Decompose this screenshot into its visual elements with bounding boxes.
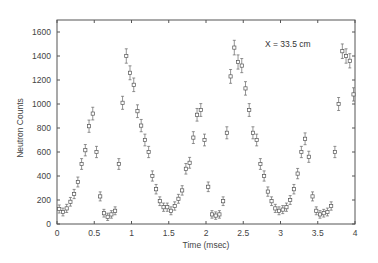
x-tick-label: 1.5 xyxy=(163,228,175,238)
data-point xyxy=(61,208,64,216)
data-point xyxy=(99,192,102,201)
data-point xyxy=(140,119,143,131)
data-point xyxy=(181,186,184,195)
data-point xyxy=(203,134,206,146)
x-tick-label: 4 xyxy=(353,228,358,238)
data-point xyxy=(330,202,333,210)
data-point xyxy=(292,184,295,193)
data-point xyxy=(210,211,213,219)
data-points xyxy=(58,40,355,220)
x-axis-label: Time (msec) xyxy=(183,240,230,250)
data-point xyxy=(263,171,266,181)
data-point xyxy=(315,207,318,215)
data-point xyxy=(162,203,165,211)
x-axis: 00.511.522.533.54 xyxy=(55,20,358,238)
data-point xyxy=(73,189,76,198)
data-point xyxy=(117,159,120,170)
data-point xyxy=(251,127,254,139)
data-point xyxy=(154,184,157,193)
data-point xyxy=(169,207,172,215)
data-point xyxy=(229,69,232,83)
y-tick-label: 1400 xyxy=(32,51,51,61)
data-point xyxy=(184,164,187,175)
data-point xyxy=(195,108,198,121)
data-point xyxy=(337,98,340,111)
x-tick-label: 3.5 xyxy=(312,228,324,238)
data-point xyxy=(136,105,139,118)
data-point xyxy=(274,204,277,212)
data-point xyxy=(80,159,83,170)
data-point xyxy=(95,146,98,157)
data-point xyxy=(307,151,310,162)
data-point xyxy=(277,207,280,215)
data-point xyxy=(255,134,258,146)
data-point xyxy=(270,197,273,206)
y-tick-label: 1000 xyxy=(32,99,51,109)
x-tick-label: 3 xyxy=(278,228,283,238)
x-tick-label: 0 xyxy=(55,228,60,238)
data-point xyxy=(322,209,325,217)
data-point xyxy=(218,211,221,219)
y-tick-label: 800 xyxy=(37,123,51,133)
data-point xyxy=(125,49,128,63)
y-tick-label: 1600 xyxy=(32,27,51,37)
data-point xyxy=(188,157,191,168)
data-point xyxy=(147,146,150,157)
data-point xyxy=(285,203,288,211)
data-point xyxy=(84,145,87,156)
data-point xyxy=(110,211,113,219)
data-point xyxy=(69,197,72,206)
data-point xyxy=(91,107,94,120)
data-point xyxy=(121,96,124,109)
data-point xyxy=(296,168,299,178)
data-point xyxy=(65,204,68,212)
data-point xyxy=(166,203,169,211)
data-point xyxy=(333,146,336,157)
data-point xyxy=(318,211,321,219)
position-annotation: X = 33.5 cm xyxy=(265,39,311,49)
y-tick-label: 600 xyxy=(37,147,51,157)
neutron-counts-chart: 00.511.522.533.54 0200400600800100012001… xyxy=(0,0,378,263)
data-point xyxy=(326,208,329,216)
data-point xyxy=(114,207,117,215)
data-point xyxy=(87,120,90,132)
data-point xyxy=(300,146,303,157)
data-point xyxy=(76,177,79,187)
data-point xyxy=(341,44,344,59)
data-point xyxy=(266,187,269,196)
data-point xyxy=(236,55,239,69)
data-point xyxy=(233,40,236,55)
x-tick-label: 2 xyxy=(204,228,209,238)
data-point xyxy=(225,127,228,139)
data-point xyxy=(248,104,251,117)
data-point xyxy=(132,78,135,92)
data-point xyxy=(289,196,292,205)
data-point xyxy=(348,54,351,68)
data-point xyxy=(207,182,210,192)
plot-area xyxy=(57,20,355,224)
data-point xyxy=(199,104,202,117)
data-point xyxy=(128,66,131,80)
y-tick-label: 1200 xyxy=(32,75,51,85)
data-point xyxy=(303,133,306,145)
data-point xyxy=(222,197,225,206)
x-tick-label: 1 xyxy=(129,228,134,238)
data-point xyxy=(106,213,109,220)
data-point xyxy=(151,171,154,181)
data-point xyxy=(281,206,284,214)
data-point xyxy=(143,134,146,146)
data-point xyxy=(158,197,161,206)
y-axis-label: Neutron Counts xyxy=(15,98,25,158)
y-tick-label: 200 xyxy=(37,195,51,205)
x-tick-label: 2.5 xyxy=(237,228,249,238)
data-point xyxy=(102,209,105,217)
x-tick-label: 0.5 xyxy=(88,228,100,238)
data-point xyxy=(344,49,347,63)
y-tick-label: 400 xyxy=(37,171,51,181)
data-point xyxy=(177,194,180,203)
data-point xyxy=(311,192,314,201)
data-point xyxy=(259,159,262,170)
y-axis: 02004006008001000120014001600 xyxy=(32,27,355,229)
data-point xyxy=(192,132,195,144)
y-tick-label: 0 xyxy=(46,219,51,229)
